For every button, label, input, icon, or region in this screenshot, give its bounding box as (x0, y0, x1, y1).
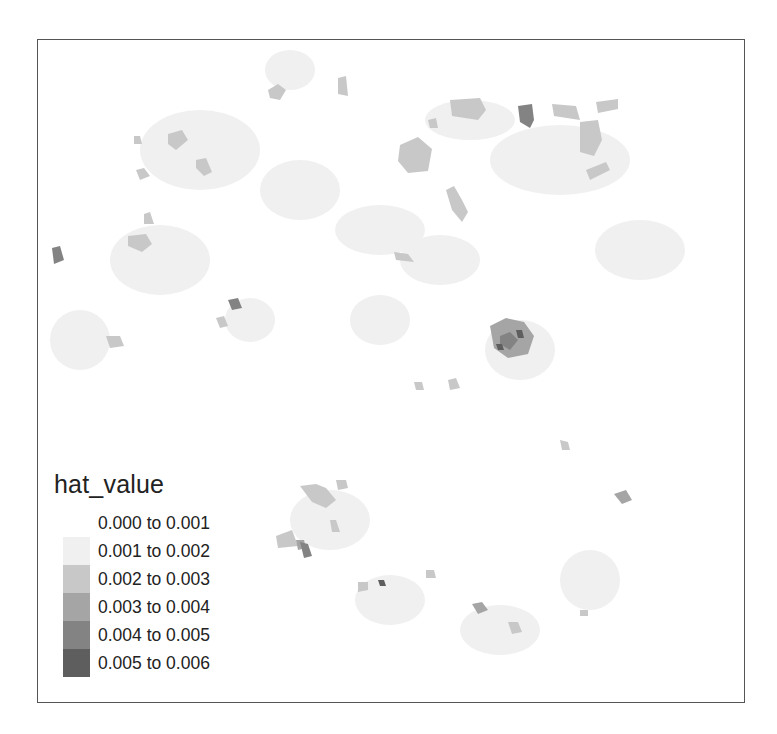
legend-item: 0.000 to 0.001 (52, 509, 210, 537)
legend-label: 0.005 to 0.006 (98, 653, 210, 674)
legend-item: 0.005 to 0.006 (52, 649, 210, 677)
map-legend: hat_value 0.000 to 0.001 0.001 to 0.002 … (52, 470, 210, 677)
legend-item: 0.003 to 0.004 (52, 593, 210, 621)
legend-label: 0.004 to 0.005 (98, 625, 210, 646)
legend-swatch (63, 565, 90, 593)
legend-label: 0.003 to 0.004 (98, 597, 210, 618)
legend-title: hat_value (54, 470, 210, 499)
legend-swatch (63, 509, 90, 537)
legend-label: 0.001 to 0.002 (98, 541, 210, 562)
legend-item: 0.002 to 0.003 (52, 565, 210, 593)
legend-label: 0.000 to 0.001 (98, 513, 210, 534)
legend-item: 0.001 to 0.002 (52, 537, 210, 565)
legend-swatch (63, 537, 90, 565)
legend-label: 0.002 to 0.003 (98, 569, 210, 590)
legend-item: 0.004 to 0.005 (52, 621, 210, 649)
legend-swatch (63, 649, 90, 677)
legend-swatch (63, 621, 90, 649)
legend-swatch (63, 593, 90, 621)
